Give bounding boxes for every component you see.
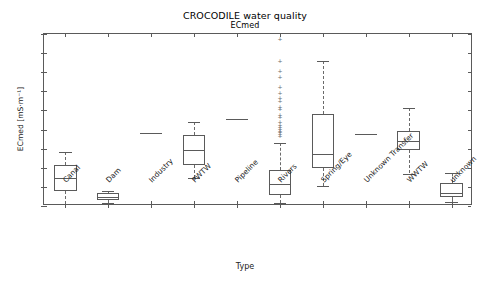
- outlier-marker: +: [277, 74, 282, 80]
- outlier-marker: +: [277, 36, 282, 42]
- y-tick-mark-inner: [44, 53, 47, 54]
- box-iqr: [312, 114, 334, 168]
- y-tick-mark-right: [468, 149, 471, 150]
- x-tick-mark-top: [366, 34, 367, 37]
- x-tick-mark: [108, 204, 109, 208]
- x-tick-mark-inner: [409, 201, 410, 204]
- median-line: [312, 154, 334, 155]
- y-tick-mark-right: [468, 91, 471, 92]
- cap-upper: [403, 108, 415, 109]
- x-tick-mark: [452, 204, 453, 208]
- y-tick-mark-right: [468, 34, 471, 35]
- x-tick-mark-top: [194, 34, 195, 37]
- outlier-marker: +: [277, 58, 282, 64]
- median-line: [269, 184, 291, 185]
- x-tick-mark-inner: [237, 201, 238, 204]
- x-tick-mark: [409, 204, 410, 208]
- y-tick-mark-inner: [44, 149, 47, 150]
- x-tick-mark-top: [65, 34, 66, 37]
- x-tick-mark-top: [151, 34, 152, 37]
- cap-upper: [59, 152, 71, 153]
- y-tick-mark-right: [468, 72, 471, 73]
- median-line: [140, 133, 162, 134]
- cap-upper: [102, 191, 114, 192]
- y-tick-mark-inner: [44, 91, 47, 92]
- y-tick-mark-inner: [44, 187, 47, 188]
- y-tick-mark-inner: [44, 168, 47, 169]
- x-tick-mark-inner: [323, 201, 324, 204]
- x-tick-mark-top: [323, 34, 324, 37]
- x-tick-mark: [280, 204, 281, 208]
- whisker-lower: [409, 150, 410, 174]
- x-tick-mark-top: [108, 34, 109, 37]
- median-line: [440, 193, 462, 194]
- figure-canvas: CROCODILE water quality ECmed ECmed [mS·…: [0, 0, 490, 290]
- x-tick-mark: [194, 204, 195, 208]
- y-tick-mark-right: [468, 53, 471, 54]
- whisker-upper: [65, 152, 66, 164]
- x-axis-label: Type: [0, 262, 490, 271]
- median-line: [183, 150, 205, 151]
- median-line: [226, 119, 248, 120]
- cap-lower: [445, 202, 457, 203]
- x-tick-mark-inner: [194, 201, 195, 204]
- whisker-lower: [280, 195, 281, 203]
- y-tick-mark-inner: [44, 206, 47, 207]
- x-tick-mark: [237, 204, 238, 208]
- x-tick-mark: [151, 204, 152, 208]
- y-tick-mark-right: [468, 187, 471, 188]
- outlier-marker: +: [277, 133, 282, 139]
- cap-lower: [274, 203, 286, 204]
- chart-title: CROCODILE water quality: [0, 10, 490, 21]
- cap-lower: [317, 186, 329, 187]
- x-tick-mark-top: [409, 34, 410, 37]
- whisker-upper: [409, 108, 410, 132]
- whisker-upper: [280, 143, 281, 170]
- y-tick-mark-inner: [44, 130, 47, 131]
- cap-lower: [102, 203, 114, 204]
- cap-upper: [274, 143, 286, 144]
- y-tick-mark-right: [468, 110, 471, 111]
- x-tick-mark: [366, 204, 367, 208]
- whisker-upper: [194, 122, 195, 135]
- x-tick-mark-top: [237, 34, 238, 37]
- y-axis-label: ECmed [mS·m⁻¹]: [16, 87, 25, 151]
- y-tick-mark-right: [468, 206, 471, 207]
- chart-subtitle: ECmed: [0, 21, 490, 30]
- cap-upper: [188, 122, 200, 123]
- box-iqr: [440, 183, 462, 197]
- cap-upper: [317, 61, 329, 62]
- x-tick-mark-top: [452, 34, 453, 37]
- whisker-lower: [65, 191, 66, 204]
- cap-lower: [59, 204, 71, 205]
- median-line: [97, 197, 119, 198]
- x-tick-mark-inner: [151, 201, 152, 204]
- y-tick-mark-inner: [44, 72, 47, 73]
- y-tick-mark-inner: [44, 34, 47, 35]
- whisker-upper: [323, 61, 324, 115]
- median-line: [355, 134, 377, 135]
- x-tick-mark: [323, 204, 324, 208]
- y-tick-mark-right: [468, 130, 471, 131]
- x-tick-mark-inner: [366, 201, 367, 204]
- y-tick-mark-inner: [44, 110, 47, 111]
